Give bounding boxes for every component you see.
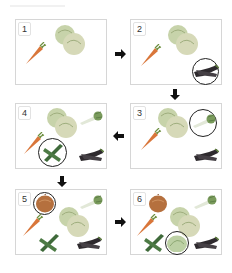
step-number: 6 <box>133 192 146 206</box>
cabbage-icon <box>157 107 189 139</box>
step-number: 4 <box>18 106 31 120</box>
step-panel-2: 2 <box>130 19 222 85</box>
arrow-right-icon <box>115 49 126 59</box>
header-placeholder-bar <box>10 5 65 7</box>
cabbage-icon <box>167 24 199 56</box>
arrow-down-icon <box>57 176 67 187</box>
step-number: 2 <box>133 22 146 36</box>
arrow-left-icon <box>113 131 124 141</box>
carrot-icon <box>139 44 163 68</box>
carrot-icon <box>24 42 48 66</box>
cabbage-icon <box>54 24 86 56</box>
onion-icon <box>148 194 168 214</box>
step-panel-3: 3 <box>130 103 222 169</box>
step-panel-1: 1 <box>15 19 107 85</box>
eggplant-icon <box>193 148 219 162</box>
eggplant-icon <box>78 148 104 162</box>
eggplant-icon <box>76 236 102 250</box>
eggplant-icon <box>193 64 219 78</box>
step-number: 1 <box>18 22 31 36</box>
lettuce-icon <box>167 234 187 252</box>
cabbage-icon <box>46 107 78 139</box>
onion-icon <box>35 194 55 214</box>
step-number: 3 <box>133 106 146 120</box>
step-number: 5 <box>18 192 31 206</box>
step-panel-4: 4 <box>15 103 107 169</box>
arrow-down-icon <box>170 89 180 100</box>
cucumbers-icon <box>42 142 64 164</box>
cabbage-icon <box>58 206 90 238</box>
eggplant-icon <box>193 236 219 250</box>
spring-onion-icon <box>192 114 216 130</box>
step-panel-5: 5 <box>15 189 107 255</box>
arrow-right-icon <box>115 217 126 227</box>
spring-onion-icon <box>79 111 103 127</box>
cucumbers-icon <box>38 232 60 254</box>
cucumbers-icon <box>143 232 165 254</box>
step-panel-6: 6 <box>130 189 222 255</box>
